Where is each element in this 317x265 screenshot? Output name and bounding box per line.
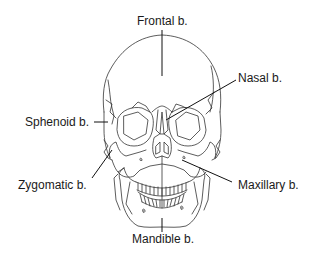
skull-illustration [0, 0, 317, 265]
maxillary-leader-line [182, 160, 232, 182]
label-zygomatic-bone: Zygomatic b. [18, 178, 87, 192]
nasal-bones [156, 110, 168, 134]
nasal-cavity [153, 134, 172, 158]
label-sphenoid-bone: Sphenoid b. [25, 115, 89, 129]
label-frontal-bone: Frontal b. [137, 14, 188, 28]
label-mandible-bone: Mandible b. [132, 232, 194, 246]
label-maxillary-bone: Maxillary b. [238, 178, 299, 192]
label-nasal-bone: Nasal b. [238, 71, 282, 85]
left-zygomatic [109, 142, 146, 158]
zygomatic-leader-line [92, 150, 112, 178]
left-orbit [117, 107, 153, 146]
right-orbit [169, 107, 206, 146]
